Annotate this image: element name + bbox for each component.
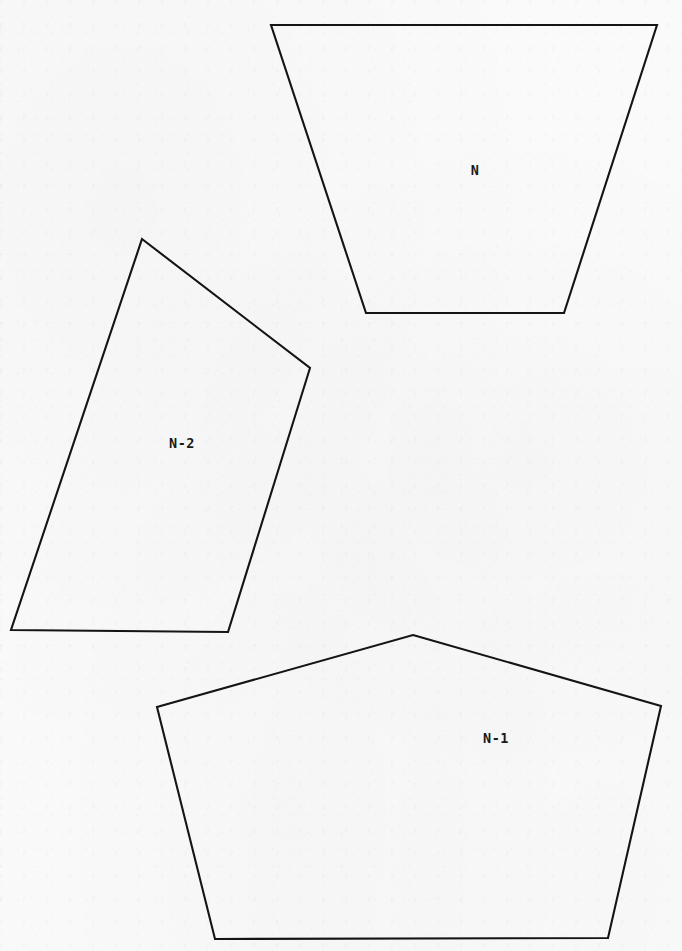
polygon-n-outline (271, 25, 657, 313)
polygon-n-minus-2-outline (11, 239, 310, 632)
polygon-n-label: N (471, 162, 480, 178)
polygon-n-minus-2-label: N-2 (169, 435, 195, 451)
polygon-n-minus-1-outline (157, 635, 661, 939)
figure-canvas: N N-2 N-1 (0, 0, 682, 951)
polygon-diagram: N N-2 N-1 (0, 0, 682, 951)
polygon-n-minus-1-label: N-1 (483, 730, 509, 746)
